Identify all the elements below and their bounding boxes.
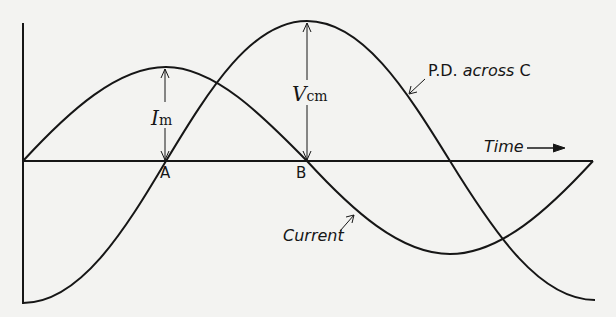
- pd-label-c: C: [519, 61, 530, 80]
- pd-label-italic: across: [463, 61, 515, 80]
- time-arrowhead-icon: [553, 144, 565, 152]
- pd-label-text: P.D.: [428, 61, 458, 80]
- vcm-symbol: V: [292, 82, 306, 106]
- im-subscript: m: [159, 112, 172, 128]
- im-label: Im: [151, 108, 172, 128]
- diagram-canvas: [0, 0, 616, 317]
- phase-diagram: Im Vcm P.D. across C Current Time A B: [0, 0, 616, 317]
- point-b-label: B: [296, 166, 306, 181]
- current-label: Current: [283, 228, 344, 244]
- vcm-label: Vcm: [292, 84, 328, 104]
- pd-leader-line: [410, 79, 425, 93]
- time-axis-label: Time: [484, 139, 524, 155]
- pd-across-c-label: P.D. across C: [428, 63, 531, 79]
- im-symbol: I: [151, 106, 159, 130]
- point-a-label: A: [160, 166, 170, 181]
- vcm-subscript: cm: [306, 88, 327, 104]
